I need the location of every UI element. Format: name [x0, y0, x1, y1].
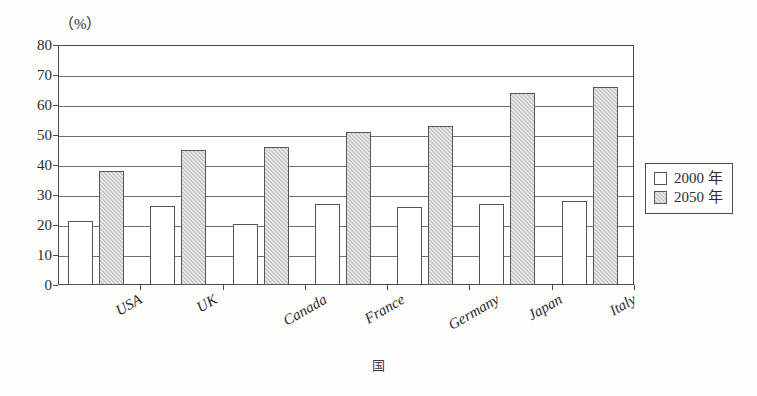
bar-uk-2050[interactable]	[181, 150, 206, 285]
legend-swatch-gray	[654, 191, 667, 204]
bar-germany-2000[interactable]	[397, 207, 422, 285]
bar-canada-2050[interactable]	[264, 147, 289, 285]
legend: 2000 年2050 年	[645, 163, 733, 214]
bar-group-germany	[387, 45, 469, 285]
bar-japan-2050[interactable]	[510, 93, 535, 285]
bar-canada-2000[interactable]	[233, 224, 258, 286]
y-tick-label-70: 70	[37, 67, 52, 84]
legend-label: 2000 年	[674, 169, 723, 188]
y-axis-unit-label: （%）	[59, 12, 102, 33]
bar-usa-2050[interactable]	[99, 171, 124, 285]
bar-group-canada	[223, 45, 305, 285]
legend-item-2000[interactable]: 2000 年	[654, 169, 723, 188]
x-tick-mark-france	[387, 285, 388, 290]
y-tick-label-80: 80	[37, 37, 52, 54]
x-tick-mark-uk	[223, 285, 224, 290]
x-axis-title: 国	[0, 355, 757, 374]
x-tick-mark-italy	[634, 285, 635, 290]
x-tick-mark-canada	[305, 285, 306, 290]
x-tick-mark-japan	[552, 285, 553, 290]
legend-swatch-white	[654, 172, 667, 185]
y-tick-label-50: 50	[37, 127, 52, 144]
bar-italy-2050[interactable]	[593, 87, 618, 285]
bar-group-usa	[58, 45, 140, 285]
bar-group-france	[305, 45, 387, 285]
bar-italy-2000[interactable]	[562, 201, 587, 285]
bar-germany-2050[interactable]	[428, 126, 453, 285]
bar-france-2000[interactable]	[315, 204, 340, 285]
bar-uk-2000[interactable]	[150, 206, 175, 286]
bar-group-italy	[552, 45, 634, 285]
y-tick-label-40: 40	[37, 157, 52, 174]
y-tick-label-10: 10	[37, 247, 52, 264]
bar-group-japan	[469, 45, 551, 285]
y-tick-mark-0	[53, 285, 58, 286]
x-tick-mark-germany	[469, 285, 470, 290]
y-tick-label-20: 20	[37, 217, 52, 234]
bar-france-2050[interactable]	[346, 132, 371, 285]
y-tick-label-0: 0	[45, 277, 53, 294]
legend-label: 2050 年	[674, 188, 723, 207]
y-tick-label-30: 30	[37, 187, 52, 204]
bar-series-container	[58, 45, 634, 285]
bar-group-uk	[140, 45, 222, 285]
bar-japan-2000[interactable]	[479, 204, 504, 285]
y-tick-label-60: 60	[37, 97, 52, 114]
bar-usa-2000[interactable]	[68, 221, 93, 286]
x-tick-mark-usa	[140, 285, 141, 290]
legend-item-2050[interactable]: 2050 年	[654, 188, 723, 207]
